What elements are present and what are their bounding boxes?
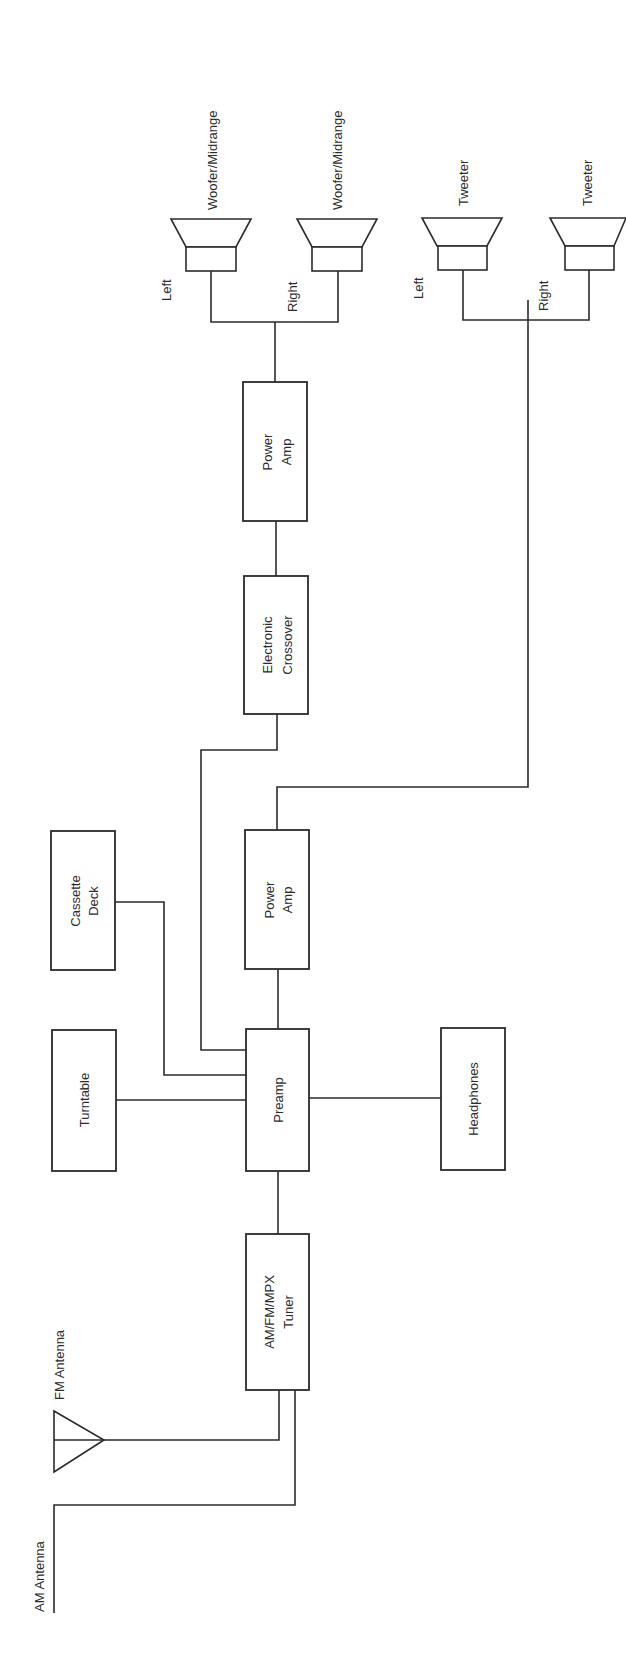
woofer-split-wire: [211, 271, 338, 322]
speaker-cone-icon: [171, 219, 251, 247]
wires: [54, 270, 589, 1613]
power-amp-woofer-label-line2: Amp: [279, 439, 294, 466]
speaker-magnet-icon: [438, 246, 487, 270]
cassette-label-line2: Deck: [86, 886, 101, 916]
speaker-cone-icon: [297, 219, 377, 247]
speaker-magnet-icon: [312, 247, 362, 271]
tweeter-left-channel-label: Left: [411, 277, 426, 299]
cassette-preamp-wire: [115, 902, 246, 1075]
tuner-label-line1: AM/FM/MPX: [262, 1275, 277, 1349]
power-amp-tweeter-label-line1: Power: [262, 881, 277, 919]
am-antenna-wire: [54, 1390, 295, 1613]
audio-system-block-diagram: AM Antenna FM Antenna AM/FM/MPX Tuner Pr…: [0, 0, 626, 1654]
crossover-label-line2: Crossover: [280, 615, 295, 675]
fm-antenna-label: FM Antenna: [52, 1329, 67, 1400]
crossover-label-line1: Electronic: [260, 616, 275, 674]
fm-antenna-icon: [54, 1411, 104, 1472]
tweeter-split-wire: [463, 270, 589, 320]
tweeter-right-channel-label: Right: [536, 280, 551, 311]
poweramp-tweeter-wire: [277, 300, 528, 830]
speaker-cone-icon: [550, 218, 626, 246]
tweeter-left-label: Tweeter: [456, 159, 471, 206]
cassette-label-line1: Cassette: [68, 875, 83, 926]
power-amp-tweeter-block: [245, 830, 309, 969]
woofer-right-label: Woofer/Midrange: [330, 111, 345, 210]
power-amp-tweeter-label-line2: Amp: [280, 887, 295, 914]
power-amp-woofer-block: [243, 382, 307, 521]
crossover-block: [244, 576, 308, 714]
speaker-woofer-left: [171, 219, 251, 271]
cassette-deck-block: [51, 831, 115, 970]
woofer-left-label: Woofer/Midrange: [205, 111, 220, 210]
speaker-tweeter-right: [550, 218, 626, 270]
speaker-woofer-right: [297, 219, 377, 271]
fm-antenna-wire: [104, 1390, 279, 1440]
headphones-label: Headphones: [466, 1062, 481, 1136]
preamp-label: Preamp: [271, 1077, 286, 1123]
speaker-magnet-icon: [186, 247, 236, 271]
tuner-label-line2: Tuner: [281, 1295, 296, 1329]
am-antenna-label: AM Antenna: [32, 1540, 47, 1612]
tuner-block: [246, 1234, 309, 1390]
tweeter-right-label: Tweeter: [580, 159, 595, 206]
speaker-tweeter-left: [422, 218, 502, 270]
turntable-label: Turntable: [77, 1073, 92, 1127]
woofer-right-channel-label: Right: [285, 281, 300, 312]
woofer-left-channel-label: Left: [159, 279, 174, 301]
speaker-cone-icon: [422, 218, 502, 246]
speaker-magnet-icon: [565, 246, 614, 270]
power-amp-woofer-label-line1: Power: [260, 433, 275, 471]
